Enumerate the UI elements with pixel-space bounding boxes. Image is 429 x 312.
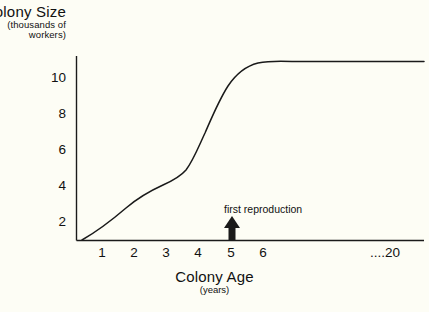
y-axis-title: Colony Size (thousands of workers) [0,4,66,41]
y-tick-label-10: 10 [26,70,66,85]
x-tick-label-3: 3 [151,245,181,260]
first-reproduction-label: first reproduction [224,203,302,215]
x-axis-title-sub: (years) [0,284,429,295]
y-axis-title-line3: workers) [0,30,66,40]
x-tick-label-5: 5 [216,245,246,260]
x-tick-label-6: 6 [248,245,278,260]
y-tick-label-8: 8 [26,106,66,121]
x-tick-label-4: 4 [183,245,213,260]
x-axis-title-main: Colony Age [0,268,429,285]
x-tick-label-1: 1 [87,245,117,260]
x-axis-title: Colony Age (years) [0,268,429,295]
y-tick-label-6: 6 [26,142,66,157]
y-tick-label-4: 4 [26,178,66,193]
x-tick-label-20: ....20 [360,245,410,260]
y-axis-title-line1: Colony Size [0,4,66,20]
y-tick-label-2: 2 [26,214,66,229]
x-tick-label-2: 2 [119,245,149,260]
